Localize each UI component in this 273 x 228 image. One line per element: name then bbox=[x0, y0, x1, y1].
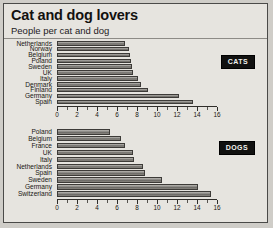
chart-figure: Cat and dog lovers People per cat and do… bbox=[3, 3, 268, 223]
page-subtitle: People per cat and dog bbox=[11, 25, 109, 36]
axis-tick-minor bbox=[67, 200, 68, 203]
bar bbox=[57, 70, 133, 75]
bar bbox=[57, 88, 148, 93]
chart-panel-cats: NetherlandsNorwayBelgiumPolandSwedenUKIt… bbox=[4, 39, 268, 125]
bar bbox=[57, 129, 110, 135]
x-axis-ticks-dogs: 0246810121416 bbox=[57, 200, 217, 212]
axis-tick-minor bbox=[147, 200, 148, 203]
bar bbox=[57, 170, 145, 176]
bar bbox=[57, 150, 133, 156]
axis-tick-minor bbox=[167, 107, 168, 110]
axis-tick-minor bbox=[167, 200, 168, 203]
bar bbox=[57, 94, 179, 99]
axis-tick-label: 8 bbox=[135, 111, 139, 118]
axis-tick-minor bbox=[87, 200, 88, 203]
series-badge-dogs: DOGS bbox=[219, 141, 255, 155]
axis-tick-minor bbox=[207, 200, 208, 203]
bar bbox=[57, 64, 132, 69]
axis-tick-minor bbox=[187, 200, 188, 203]
axis-tick-label: 10 bbox=[153, 204, 160, 211]
bar bbox=[57, 177, 162, 183]
axis-tick-label: 2 bbox=[75, 204, 79, 211]
series-badge-cats: CATS bbox=[221, 55, 255, 69]
bar bbox=[57, 41, 125, 46]
axis-tick-label: 16 bbox=[213, 111, 220, 118]
axis-tick-minor bbox=[67, 107, 68, 110]
axis-tick-label: 12 bbox=[173, 204, 180, 211]
axis-tick-label: 2 bbox=[75, 111, 79, 118]
chart-panel-dogs: PolandBelgiumFranceUKItalyNetherlandsSpa… bbox=[4, 127, 268, 222]
axis-tick-label: 14 bbox=[193, 111, 200, 118]
bar bbox=[57, 143, 125, 149]
bar bbox=[57, 53, 130, 58]
bar bbox=[57, 59, 131, 64]
bar bbox=[57, 164, 143, 170]
axis-tick-label: 6 bbox=[115, 204, 119, 211]
bar bbox=[57, 136, 121, 142]
axis-tick-minor bbox=[107, 107, 108, 110]
bar bbox=[57, 157, 134, 163]
axis-tick-minor bbox=[127, 200, 128, 203]
bar bbox=[57, 76, 138, 81]
axis-tick-label: 10 bbox=[153, 111, 160, 118]
category-label: Spain bbox=[35, 99, 52, 106]
axis-tick-label: 6 bbox=[115, 111, 119, 118]
axis-tick-label: 4 bbox=[95, 204, 99, 211]
axis-tick-minor bbox=[87, 107, 88, 110]
bar bbox=[57, 191, 211, 197]
bar bbox=[57, 184, 198, 190]
axis-tick-label: 4 bbox=[95, 111, 99, 118]
bar bbox=[57, 47, 129, 52]
page-title: Cat and dog lovers bbox=[11, 7, 138, 23]
bar bbox=[57, 82, 141, 87]
bar bbox=[57, 100, 193, 105]
axis-tick-label: 16 bbox=[213, 204, 220, 211]
axis-tick-label: 12 bbox=[173, 111, 180, 118]
x-axis-ticks-cats: 0246810121416 bbox=[57, 107, 217, 119]
axis-tick-label: 0 bbox=[55, 111, 59, 118]
axis-tick-label: 8 bbox=[135, 204, 139, 211]
axis-tick-minor bbox=[187, 107, 188, 110]
axis-tick-label: 14 bbox=[193, 204, 200, 211]
axis-tick-minor bbox=[107, 200, 108, 203]
axis-tick-minor bbox=[127, 107, 128, 110]
axis-tick-minor bbox=[207, 107, 208, 110]
axis-tick-label: 0 bbox=[55, 204, 59, 211]
axis-tick-minor bbox=[147, 107, 148, 110]
category-label: Switzerland bbox=[18, 191, 52, 198]
